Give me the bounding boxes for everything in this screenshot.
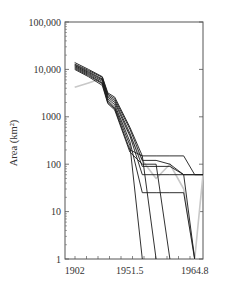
y-tick-label: 10,000 bbox=[34, 64, 62, 75]
y-axis-title: Area (km²) bbox=[8, 119, 20, 166]
y-axis-tick-labels: 100,00010,0001000100101 bbox=[29, 17, 62, 265]
y-tick-label: 10 bbox=[51, 206, 61, 217]
x-tick-label: 1964.8 bbox=[181, 265, 209, 276]
series-line-trajectory-observed bbox=[75, 78, 203, 259]
series-line-trajectory-8 bbox=[75, 69, 170, 259]
x-tick-label: 1902 bbox=[65, 265, 85, 276]
y-tick-label: 100 bbox=[46, 159, 61, 170]
x-tick-label: 1951.5 bbox=[116, 265, 144, 276]
series-line-trajectory-5 bbox=[75, 67, 195, 260]
chart: 100,00010,0001000100101 19021951.51964.8… bbox=[0, 0, 244, 293]
y-tick-label: 1 bbox=[56, 254, 61, 265]
x-axis-tick-labels: 19021951.51964.8 bbox=[65, 265, 209, 276]
series-layer bbox=[75, 63, 203, 260]
y-tick-label: 100,000 bbox=[29, 17, 62, 28]
y-tick-label: 1000 bbox=[41, 111, 61, 122]
